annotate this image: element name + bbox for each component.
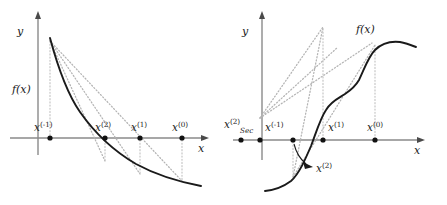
left-function-curve bbox=[50, 38, 201, 186]
left-label-x-0: x(0) bbox=[172, 120, 188, 133]
left-panel-plot: y x f(x) x(-1) x(2) x(1) x(0) bbox=[0, 0, 223, 205]
node-x-2 bbox=[290, 137, 295, 142]
left-x-axis bbox=[10, 135, 209, 141]
right-label-x-1: x(1) bbox=[328, 120, 344, 133]
node-x-1 bbox=[320, 137, 325, 142]
node-x-2 bbox=[102, 135, 107, 140]
node-x-minus1 bbox=[47, 135, 52, 140]
right-secant-lines bbox=[260, 27, 375, 177]
node-x-1 bbox=[137, 135, 142, 140]
left-x-axis-label: x bbox=[198, 142, 205, 155]
right-label-x-2-sec: x(2)Sec bbox=[224, 117, 253, 135]
right-label-x-minus1: x(-1) bbox=[265, 120, 284, 133]
left-y-axis bbox=[35, 11, 41, 155]
node-x-0 bbox=[372, 137, 377, 142]
node-x-minus1 bbox=[257, 137, 262, 142]
left-y-axis-label: y bbox=[16, 25, 24, 38]
node-x-2-sec bbox=[238, 137, 243, 142]
right-function-label: f(x) bbox=[355, 23, 375, 36]
right-x-axis-label: x bbox=[414, 144, 421, 157]
right-panel-plot: y x f(x) x(2)Sec x(-1) x(1) x(0) x(2) bbox=[223, 0, 447, 205]
secant-method-figure: y x f(x) x(-1) x(2) x(1) x(0) bbox=[0, 0, 447, 205]
node-x-0 bbox=[179, 135, 184, 140]
right-y-axis-label: y bbox=[241, 25, 249, 38]
left-label-x-2: x(2) bbox=[95, 120, 111, 133]
left-secant-lines bbox=[50, 41, 182, 181]
left-label-x-1: x(1) bbox=[131, 120, 147, 133]
right-label-x-2-arrow: x(2) bbox=[316, 161, 332, 174]
left-function-label: f(x) bbox=[11, 83, 31, 96]
